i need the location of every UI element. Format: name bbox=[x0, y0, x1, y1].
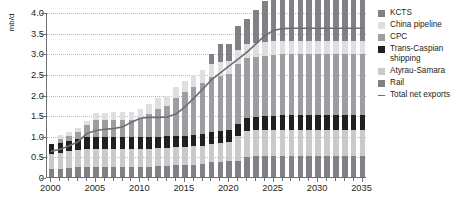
legend-swatch-icon bbox=[378, 46, 385, 53]
legend-item-label: China pipeline bbox=[390, 20, 442, 30]
x-tick-label: 2020 bbox=[208, 183, 248, 193]
y-tick-label: 3.0 bbox=[14, 49, 44, 59]
legend-item[interactable]: CPC bbox=[378, 32, 466, 42]
y-tick-label: 4.0 bbox=[14, 8, 44, 18]
x-tick-mark bbox=[50, 178, 51, 182]
x-tick-label: 2035 bbox=[342, 183, 382, 193]
x-tick-mark-minor bbox=[290, 178, 291, 181]
y-tick-label: 2.0 bbox=[14, 91, 44, 101]
x-tick-mark-minor bbox=[166, 178, 167, 181]
x-tick-mark-minor bbox=[237, 178, 238, 181]
x-tick-label: 2030 bbox=[297, 183, 337, 193]
legend-item[interactable]: Trans-Caspian shipping bbox=[378, 44, 466, 63]
x-tick-mark-minor bbox=[246, 178, 247, 181]
x-tick-label: 2010 bbox=[119, 183, 159, 193]
x-tick-mark-minor bbox=[255, 178, 256, 181]
legend-item-label: KCTS bbox=[390, 8, 412, 18]
legend-item[interactable]: Total net exports bbox=[378, 90, 466, 100]
x-axis-ticks: 20002005201020152020202520302035 bbox=[46, 178, 366, 204]
x-tick-mark bbox=[362, 178, 363, 182]
x-tick-mark-minor bbox=[157, 178, 158, 181]
y-tick-label: 1.0 bbox=[14, 132, 44, 142]
legend-item-label: Atyrau-Samara bbox=[390, 66, 445, 76]
x-tick-label: 2025 bbox=[253, 183, 293, 193]
legend-swatch-icon bbox=[378, 10, 385, 17]
x-tick-mark bbox=[184, 178, 185, 182]
y-tick-label: 0.5 bbox=[14, 152, 44, 162]
y-tick-label: 2.5 bbox=[14, 70, 44, 80]
x-tick-mark-minor bbox=[264, 178, 265, 181]
x-tick-mark-minor bbox=[344, 178, 345, 181]
x-tick-mark-minor bbox=[210, 178, 211, 181]
plot-area bbox=[46, 13, 366, 178]
x-tick-mark-minor bbox=[219, 178, 220, 181]
legend-swatch-icon bbox=[378, 80, 385, 87]
legend-line-icon bbox=[378, 95, 385, 96]
chart-figure: mb/d 00.51.01.52.02.53.03.54.0 200020052… bbox=[0, 0, 466, 204]
line-path bbox=[51, 28, 362, 151]
x-tick-mark bbox=[228, 178, 229, 182]
x-tick-mark-minor bbox=[326, 178, 327, 181]
legend-item-label: Trans-Caspian shipping bbox=[390, 44, 466, 63]
x-tick-mark bbox=[317, 178, 318, 182]
y-tick-label: 0 bbox=[14, 173, 44, 183]
legend-item[interactable]: Rail bbox=[378, 78, 466, 88]
x-tick-mark-minor bbox=[175, 178, 176, 181]
x-tick-mark-minor bbox=[202, 178, 203, 181]
x-tick-mark-minor bbox=[122, 178, 123, 181]
legend-item[interactable]: KCTS bbox=[378, 8, 466, 18]
x-tick-mark-minor bbox=[282, 178, 283, 181]
legend-item-label: Total net exports bbox=[390, 90, 450, 100]
legend-swatch-icon bbox=[378, 68, 385, 75]
x-tick-mark-minor bbox=[86, 178, 87, 181]
y-tick-label: 3.5 bbox=[14, 29, 44, 39]
x-tick-mark-minor bbox=[104, 178, 105, 181]
legend-item[interactable]: China pipeline bbox=[378, 20, 466, 30]
x-tick-label: 2005 bbox=[75, 183, 115, 193]
x-tick-mark-minor bbox=[299, 178, 300, 181]
x-tick-mark-minor bbox=[193, 178, 194, 181]
x-tick-mark bbox=[139, 178, 140, 182]
total-net-exports-line bbox=[47, 13, 367, 178]
x-tick-mark-minor bbox=[130, 178, 131, 181]
x-tick-mark bbox=[273, 178, 274, 182]
x-tick-mark bbox=[95, 178, 96, 182]
legend-swatch-icon bbox=[378, 22, 385, 29]
x-tick-mark-minor bbox=[59, 178, 60, 181]
legend-item-label: Rail bbox=[390, 78, 404, 88]
y-tick-label: 1.5 bbox=[14, 111, 44, 121]
legend-item-label: CPC bbox=[390, 32, 407, 42]
x-tick-mark-minor bbox=[68, 178, 69, 181]
x-tick-mark-minor bbox=[148, 178, 149, 181]
x-tick-mark-minor bbox=[335, 178, 336, 181]
x-tick-label: 2015 bbox=[164, 183, 204, 193]
x-tick-mark-minor bbox=[353, 178, 354, 181]
x-tick-mark-minor bbox=[77, 178, 78, 181]
legend-swatch-icon bbox=[378, 34, 385, 41]
chart-legend: KCTSChina pipelineCPCTrans-Caspian shipp… bbox=[378, 8, 466, 102]
x-tick-mark-minor bbox=[113, 178, 114, 181]
legend-item[interactable]: Atyrau-Samara bbox=[378, 66, 466, 76]
x-tick-mark-minor bbox=[308, 178, 309, 181]
x-tick-label: 2000 bbox=[30, 183, 70, 193]
y-axis-title: mb/d bbox=[7, 0, 16, 46]
